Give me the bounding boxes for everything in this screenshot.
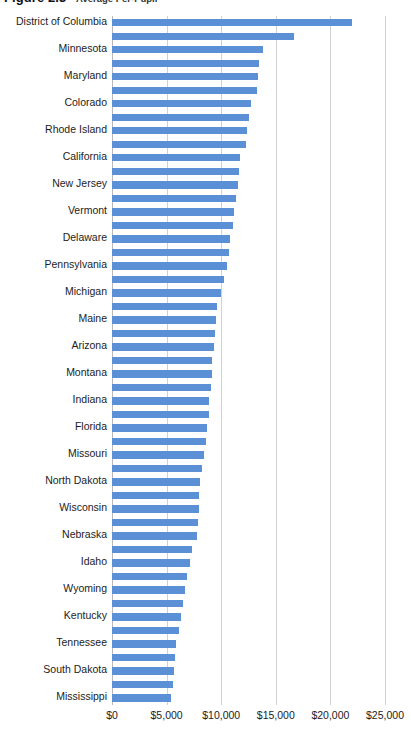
y-axis-label: Mississippi: [0, 690, 107, 704]
bar-chart: District of ColumbiaMinnesotaMarylandCol…: [0, 14, 411, 741]
bar: [112, 141, 246, 148]
x-axis-tick: $15,000: [257, 709, 295, 721]
bar-row: [112, 624, 385, 638]
bar: [112, 667, 174, 674]
bar: [112, 654, 175, 661]
bar: [112, 87, 257, 94]
y-axis-label: North Dakota: [0, 474, 107, 488]
bar: [112, 640, 176, 647]
bar-row: [112, 394, 385, 408]
bar: [112, 33, 294, 40]
bar: [112, 681, 173, 688]
y-axis-label: Wisconsin: [0, 501, 107, 515]
y-axis-label: Wyoming: [0, 582, 107, 596]
bar: [112, 19, 352, 26]
bar: [112, 600, 183, 607]
bar-row: [112, 583, 385, 597]
bar-row: [112, 381, 385, 395]
plot-area: [112, 16, 385, 705]
bar-row: [112, 597, 385, 611]
figure-subtitle: Average Per-Pupil: [76, 0, 157, 4]
bar-row: [112, 219, 385, 233]
bar: [112, 262, 227, 269]
bar-row: [112, 151, 385, 165]
bar: [112, 438, 206, 445]
bar-row: [112, 192, 385, 206]
bar: [112, 357, 212, 364]
bar-row: [112, 543, 385, 557]
bar-row: [112, 664, 385, 678]
y-axis-label: California: [0, 150, 107, 164]
bar: [112, 411, 209, 418]
y-axis-label: Minnesota: [0, 42, 107, 56]
bar: [112, 573, 187, 580]
bar: [112, 465, 202, 472]
bar-row: [112, 489, 385, 503]
figure-title: Figure 2.3 Average Per-Pupil: [4, 0, 157, 6]
bar: [112, 127, 247, 134]
bar: [112, 222, 233, 229]
bar: [112, 627, 179, 634]
bar: [112, 60, 259, 67]
y-axis-label: Tennessee: [0, 636, 107, 650]
y-axis-label: Pennsylvania: [0, 258, 107, 272]
bar-row: [112, 408, 385, 422]
y-axis-label: Colorado: [0, 96, 107, 110]
bar-row: [112, 435, 385, 449]
bar-row: [112, 570, 385, 584]
bar-row: [112, 30, 385, 44]
figure-number: Figure 2.3: [4, 0, 66, 5]
bar-row: [112, 259, 385, 273]
bar-row: [112, 354, 385, 368]
bar-row: [112, 273, 385, 287]
y-axis-label: South Dakota: [0, 663, 107, 677]
x-axis-tick: $25,000: [366, 709, 404, 721]
bar: [112, 559, 190, 566]
bar-row: [112, 16, 385, 30]
y-axis-label: Montana: [0, 366, 107, 380]
bar-row: [112, 340, 385, 354]
x-axis-tick: $10,000: [202, 709, 240, 721]
bar-row: [112, 232, 385, 246]
bar-row: [112, 286, 385, 300]
y-axis-label: Idaho: [0, 555, 107, 569]
y-axis-label: Nebraska: [0, 528, 107, 542]
bar-row: [112, 138, 385, 152]
bar-row: [112, 610, 385, 624]
y-axis-label: Rhode Island: [0, 123, 107, 137]
bar: [112, 694, 171, 701]
bar: [112, 613, 181, 620]
bar-row: [112, 300, 385, 314]
bar-row: [112, 70, 385, 84]
bar-row: [112, 516, 385, 530]
bar-row: [112, 43, 385, 57]
bar-row: [112, 502, 385, 516]
bar: [112, 519, 198, 526]
bar: [112, 181, 238, 188]
y-axis-label: Vermont: [0, 204, 107, 218]
bar: [112, 370, 212, 377]
bar: [112, 532, 197, 539]
bar: [112, 154, 240, 161]
bar: [112, 73, 258, 80]
y-axis-label: Maryland: [0, 69, 107, 83]
bar: [112, 586, 185, 593]
bar: [112, 100, 251, 107]
bar: [112, 384, 211, 391]
y-axis-label: Arizona: [0, 339, 107, 353]
bar-row: [112, 205, 385, 219]
bar: [112, 208, 234, 215]
bar-row: [112, 178, 385, 192]
x-axis-tick: $5,000: [151, 709, 183, 721]
bar-row: [112, 313, 385, 327]
bar-row: [112, 691, 385, 705]
bar: [112, 195, 236, 202]
bar: [112, 492, 199, 499]
bar: [112, 303, 217, 310]
x-axis-tick: $20,000: [311, 709, 349, 721]
bar: [112, 330, 215, 337]
y-axis-label: Kentucky: [0, 609, 107, 623]
bar-row: [112, 97, 385, 111]
y-axis-label: Delaware: [0, 231, 107, 245]
bar: [112, 505, 199, 512]
